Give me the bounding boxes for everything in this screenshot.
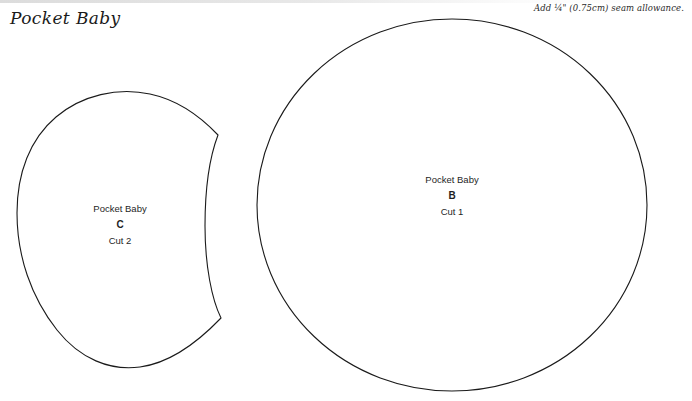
piece-b-letter: B	[389, 188, 515, 204]
piece-b-name: Pocket Baby	[389, 172, 515, 188]
piece-c-name: Pocket Baby	[57, 201, 183, 217]
piece-c-letter: C	[57, 217, 183, 233]
piece-label-c: Pocket Baby C Cut 2	[57, 201, 183, 249]
piece-c-cut: Cut 2	[57, 233, 183, 249]
piece-b-cut: Cut 1	[389, 204, 515, 220]
piece-label-b: Pocket Baby B Cut 1	[389, 172, 515, 220]
